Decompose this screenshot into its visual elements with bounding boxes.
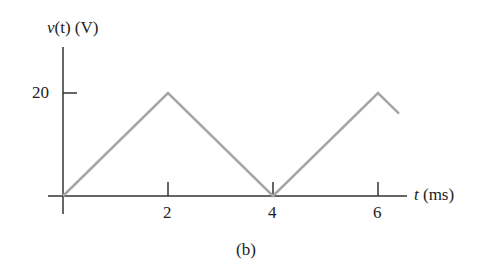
y-axis-label-rest: (t) (V) [55,18,99,37]
y-axis-label-var: v [47,18,55,37]
y-axis-label: v(t) (V) [47,18,98,38]
triangle-wave-chart [0,0,483,273]
voltage-waveform [63,93,399,196]
x-tick-label-6: 6 [373,203,382,223]
x-axis-label: t (ms) [414,185,454,205]
y-tick-label-20: 20 [32,83,49,103]
figure-caption: (b) [236,240,256,260]
x-tick-label-4: 4 [268,203,277,223]
x-axis-label-rest: (ms) [419,185,454,204]
x-tick-label-2: 2 [163,203,172,223]
